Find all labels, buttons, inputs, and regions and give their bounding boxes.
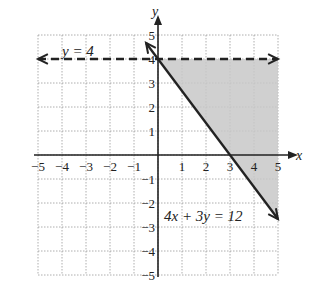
- y-tick-label: −4: [141, 244, 155, 259]
- x-tick-label: 4: [251, 159, 258, 174]
- y-tick-label: −2: [141, 196, 155, 211]
- x-tick-label: 5: [275, 159, 282, 174]
- coordinate-plane: −5−4−3−2−11234554321−1−2−3−4−5 x y y = 4…: [0, 0, 312, 290]
- line-label-y-equals-4: y = 4: [60, 43, 94, 59]
- y-tick-label: 3: [149, 76, 156, 91]
- x-tick-label: −1: [127, 159, 141, 174]
- y-tick-label: 2: [149, 100, 156, 115]
- x-tick-label: −4: [55, 159, 69, 174]
- x-tick-label: 3: [227, 159, 234, 174]
- x-tick-label: 1: [179, 159, 186, 174]
- y-tick-label: 5: [149, 28, 156, 43]
- x-tick-label: −2: [103, 159, 117, 174]
- line-label-4x-3y-12: 4x + 3y = 12: [164, 208, 243, 224]
- y-tick-label: −5: [141, 268, 155, 283]
- x-tick-label: 2: [203, 159, 210, 174]
- y-tick-label: −3: [141, 220, 155, 235]
- x-tick-label: −3: [79, 159, 93, 174]
- x-axis-label: x: [295, 148, 303, 163]
- x-tick-label: −5: [31, 159, 45, 174]
- y-tick-label: −1: [141, 172, 155, 187]
- y-axis-label: y: [150, 4, 159, 19]
- y-tick-label: 1: [149, 124, 156, 139]
